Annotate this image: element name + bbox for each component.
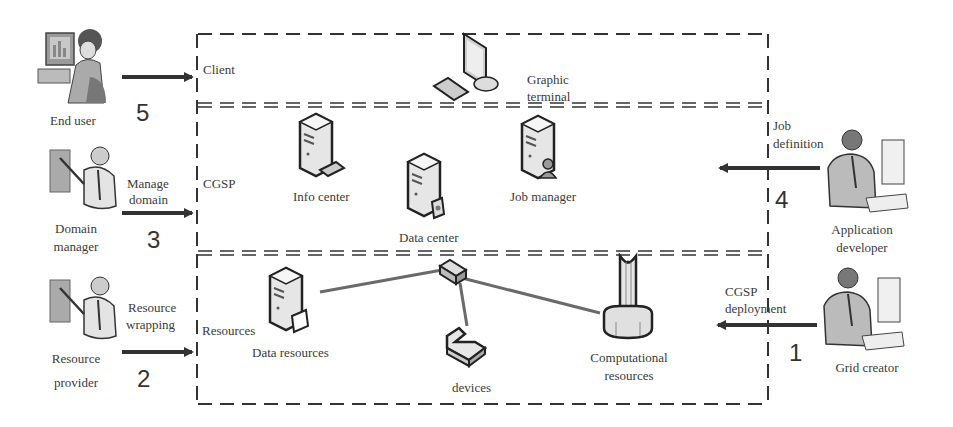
computational-resources-label-2: resources <box>586 368 672 383</box>
diagram-canvas <box>0 0 953 427</box>
devices-label: devices <box>452 380 491 395</box>
layer-label-cgsp: CGSP <box>203 176 236 191</box>
job-manager-server-icon <box>522 116 556 178</box>
graphic-terminal-icon <box>434 34 498 100</box>
flow-1-label-2: deployment <box>725 301 786 316</box>
data-center-label: Data center <box>399 230 459 245</box>
devices-scanner-icon <box>447 328 485 366</box>
job-manager-label: Job manager <box>510 189 576 204</box>
step-number-4: 4 <box>775 188 788 212</box>
info-center-label: Info center <box>293 189 350 204</box>
application-developer-icon <box>828 130 908 212</box>
flow-2-label-2: wrapping <box>126 317 175 332</box>
flow-3-label-1: Manage <box>127 176 169 191</box>
flow-4-label-2: definition <box>773 136 824 151</box>
step-number-1: 1 <box>789 341 802 365</box>
resource-provider-label-2: provider <box>46 375 106 390</box>
flow-4-label-1: Job <box>773 118 791 133</box>
step-number-3: 3 <box>147 228 160 252</box>
flow-3-label-2: domain <box>129 192 168 207</box>
data-resources-server-icon <box>270 268 308 332</box>
application-developer-label-1: Application <box>822 222 902 237</box>
graphic-terminal-label-2: terminal <box>527 89 570 104</box>
info-center-server-icon <box>300 114 344 176</box>
computational-resources-icon <box>604 256 652 338</box>
layer-label-client: Client <box>203 62 235 77</box>
domain-manager-label-1: Domain <box>46 221 106 236</box>
domain-manager-icon <box>50 147 116 209</box>
application-developer-label-2: developer <box>822 240 902 255</box>
data-resources-label: Data resources <box>252 345 329 360</box>
grid-creator-icon <box>824 268 904 350</box>
end-user-icon <box>38 29 106 103</box>
resource-provider-label-1: Resource <box>46 351 106 366</box>
layer-label-resources: Resources <box>202 323 255 338</box>
domain-manager-label-2: manager <box>46 239 106 254</box>
end-user-label: End user <box>38 113 108 128</box>
computational-resources-label-1: Computational <box>586 350 672 365</box>
data-center-server-icon <box>408 154 444 218</box>
graphic-terminal-label-1: Graphic <box>527 72 569 87</box>
network-switch-icon <box>440 260 466 284</box>
step-number-5: 5 <box>136 101 149 125</box>
layer-divider-client-cgsp <box>198 103 768 107</box>
grid-creator-label: Grid creator <box>822 360 912 375</box>
flow-1-label-1: CGSP <box>725 284 758 299</box>
flow-2-label-1: Resource <box>128 300 176 315</box>
step-number-2: 2 <box>137 367 150 391</box>
resource-provider-icon <box>50 277 116 339</box>
layer-divider-cgsp-resources <box>198 251 768 255</box>
